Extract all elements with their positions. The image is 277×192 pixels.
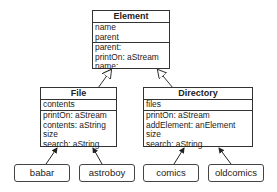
attributes-section: name parent (93, 23, 169, 43)
methods-section: parent: printOn: aStream name: (93, 43, 169, 72)
instance-astroboy: astroboy (79, 164, 135, 182)
method: addElement: anElement (146, 121, 252, 131)
method: search: aString (146, 140, 252, 150)
attribute: contents (43, 100, 116, 110)
instance-oldcomics-directory (219, 148, 231, 164)
instance-astroboy-file (93, 148, 102, 164)
instance-babar: babar (14, 164, 70, 182)
methods-section: printOn: aStream addElement: anElement s… (144, 111, 252, 149)
class-element: Element name parent parent: printOn: aSt… (92, 10, 170, 69)
methods-section: printOn: aStream contents: aString size … (41, 111, 116, 149)
method: search: aString (43, 140, 116, 150)
attribute: files (146, 100, 252, 110)
class-directory: Directory files printOn: aStream addElem… (143, 87, 253, 147)
inheritance-directory-element (158, 70, 173, 88)
inheritance-file-element (98, 70, 111, 88)
attribute: parent (95, 33, 169, 43)
instance-comics: comics (143, 164, 199, 182)
class-file: File contents printOn: aStream contents:… (40, 87, 117, 147)
instance-comics-directory (174, 148, 184, 164)
method: name: (95, 62, 169, 72)
instance-oldcomics: oldcomics (208, 164, 264, 182)
instance-babar-file (46, 148, 57, 164)
